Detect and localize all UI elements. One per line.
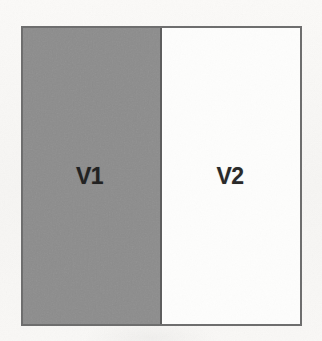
partition-rectangle: V1 V2 xyxy=(21,26,302,326)
scanned-page: V1 V2 xyxy=(0,0,322,341)
region-v1-shaded: V1 xyxy=(23,28,162,324)
region-v2-label: V2 xyxy=(216,165,243,188)
region-v1-label: V1 xyxy=(76,165,103,188)
region-v2-unshaded: V2 xyxy=(164,28,300,324)
